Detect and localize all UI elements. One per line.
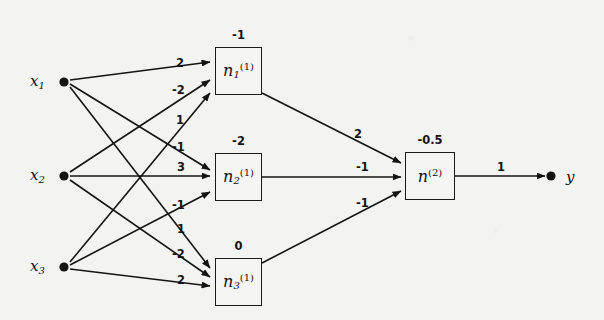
edge-x2-to-n1 [70,80,210,172]
weight-label-n2-to-n2out: -1 [356,160,369,174]
input-label-x3: x3 [30,257,45,276]
weight-label-x3-to-n3: 2 [177,273,185,287]
hidden-node-n3-label: n3(1) [223,273,254,291]
output-node-y[interactable] [546,171,555,180]
output-label-y: y [566,168,574,186]
weight-label-n3-to-n2out: -1 [356,196,369,210]
weight-label-x2-to-n1: -2 [172,83,185,97]
edge-x3-to-n2 [70,192,210,265]
edge-x3-to-n3 [70,269,210,286]
input-node-x2[interactable] [59,171,68,180]
weight-label-x2-to-n3: -2 [172,247,185,261]
edge-x1-to-n1 [70,62,210,80]
output-node-n2-label: n(2) [418,168,442,185]
hidden-node-n2[interactable]: n2(1) [215,153,262,201]
input-node-x1[interactable] [59,77,68,86]
input-output-dots [59,77,555,271]
bias-label-n2: -2 [215,134,262,148]
weight-label-x1-to-n3: 1 [177,222,185,236]
weight-label-n1-to-n2out: 2 [354,127,362,141]
weight-label-x3-to-n1: 1 [176,113,184,127]
edge-group [70,62,545,286]
hidden-node-n1-label: n1(1) [223,62,254,80]
neural-network-diagram: n1(1) n2(1) n3(1) n(2) -1 -2 0 -0.5 x1 x… [0,0,604,320]
weight-label-x1-to-n2: -1 [172,140,185,154]
weight-label-n2out-to-y: 1 [497,160,505,174]
input-node-x3[interactable] [59,262,68,271]
bias-label-n1: -1 [215,28,262,42]
weight-label-x1-to-n1: 2 [176,56,184,70]
input-label-x1: x1 [30,72,45,91]
output-node-n2[interactable]: n(2) [405,152,455,200]
input-label-x2: x2 [30,166,45,185]
edge-n1-to-out [262,93,401,163]
hidden-node-n3[interactable]: n3(1) [215,258,262,306]
weight-label-x3-to-n2: -1 [172,198,185,212]
edge-x3-to-n1 [70,93,210,262]
network-edges-layer [0,0,604,320]
hidden-node-n1[interactable]: n1(1) [215,47,262,95]
edge-x1-to-n2 [70,84,210,170]
bias-label-n3: 0 [215,239,262,253]
bias-label-output: -0.5 [405,133,455,147]
weight-label-x2-to-n2: 3 [177,160,185,174]
edge-n3-to-out [262,191,401,263]
hidden-node-n2-label: n2(1) [223,168,254,186]
